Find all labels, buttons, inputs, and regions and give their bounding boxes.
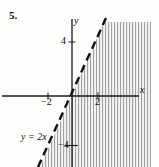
problem-number-label: 5. <box>9 10 17 21</box>
line-equation-label: y = 2x <box>21 132 47 142</box>
graph-figure: 5. y x 4 −4 −2 2 y = 2x <box>0 0 159 167</box>
y-tick-label-minus-4: −4 <box>58 140 69 150</box>
x-tick-label-minus-2: −2 <box>41 97 52 107</box>
x-axis-label: x <box>140 85 144 95</box>
x-tick-label-2: 2 <box>95 97 100 107</box>
y-tick-label-4: 4 <box>61 36 66 46</box>
y-axis-label: y <box>74 16 78 26</box>
